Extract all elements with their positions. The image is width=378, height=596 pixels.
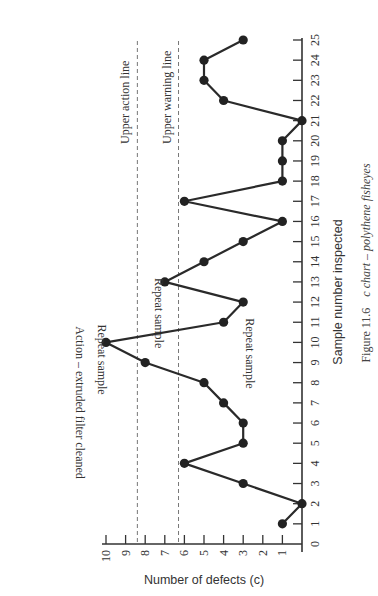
annotation-label: Action – extruded filter cleaned <box>73 326 87 479</box>
data-point <box>239 418 248 427</box>
x-tick-label: 2 <box>308 501 322 507</box>
x-tick-label: 14 <box>308 256 322 268</box>
data-point <box>219 318 228 327</box>
caption-number: Figure 11.6 <box>359 308 373 363</box>
reference-line-label: Upper warning line <box>160 51 174 144</box>
c-chart: 0123456789101112131415161718192021222324… <box>0 0 378 596</box>
data-point <box>180 459 189 468</box>
reference-line-label: Upper action line <box>118 61 132 144</box>
x-tick-label: 24 <box>308 54 322 66</box>
data-point <box>141 358 150 367</box>
x-tick-label: 1 <box>308 521 322 527</box>
x-tick-label: 13 <box>308 276 322 288</box>
x-tick-label: 25 <box>308 34 322 46</box>
caption-text: c chart – polythene fisheyes <box>359 163 373 297</box>
x-tick-label: 21 <box>308 115 322 127</box>
data-point <box>278 136 287 145</box>
x-tick-label: 11 <box>308 316 322 328</box>
x-tick-label: 8 <box>308 380 322 386</box>
reference-lines: Upper action lineUpper warning line <box>118 40 178 542</box>
x-tick-label: 5 <box>308 440 322 446</box>
data-point <box>278 177 287 186</box>
y-tick-label: 3 <box>236 550 250 556</box>
y-tick-label: 8 <box>138 550 152 556</box>
y-tick-label: 10 <box>99 550 113 562</box>
figure-caption: Figure 11.6 c chart – polythene fisheyes <box>359 163 373 363</box>
data-point <box>239 439 248 448</box>
x-tick-label: 10 <box>308 336 322 348</box>
x-tick-label: 17 <box>308 195 322 207</box>
y-tick-label: 4 <box>217 550 231 556</box>
data-point <box>278 519 287 528</box>
y-tick-label: 1 <box>275 550 289 556</box>
data-point <box>199 257 208 266</box>
x-tick-label: 0 <box>308 541 322 547</box>
y-tick-label: 9 <box>119 550 133 556</box>
x-tick-label: 22 <box>308 94 322 106</box>
x-tick-label: 7 <box>308 400 322 406</box>
annotation-label: Repeat sample <box>95 324 109 394</box>
y-axis-title: Number of defects (c) <box>144 573 264 587</box>
x-tick-label: 6 <box>308 420 322 426</box>
data-point <box>239 35 248 44</box>
data-point <box>297 116 306 125</box>
y-tick-label: 2 <box>256 550 270 556</box>
data-point <box>180 197 189 206</box>
data-point <box>199 378 208 387</box>
data-point <box>199 76 208 85</box>
x-tick-label: 18 <box>308 175 322 187</box>
x-tick-label: 15 <box>308 236 322 248</box>
x-tick-label: 19 <box>308 155 322 167</box>
data-point <box>219 398 228 407</box>
y-tick-label: 7 <box>158 550 172 556</box>
annotation-label: Repeat sample <box>243 318 257 388</box>
data-point <box>239 237 248 246</box>
data-point <box>239 297 248 306</box>
data-point <box>239 479 248 488</box>
data-point <box>199 56 208 65</box>
rotated-figure: 0123456789101112131415161718192021222324… <box>0 0 378 596</box>
x-tick-label: 9 <box>308 360 322 366</box>
data-point <box>278 156 287 165</box>
y-tick-label: 5 <box>197 550 211 556</box>
x-tick-label: 12 <box>308 296 322 308</box>
axes: 0123456789101112131415161718192021222324… <box>99 34 322 562</box>
x-tick-label: 4 <box>308 460 322 466</box>
data-point <box>219 96 228 105</box>
y-tick-label: 6 <box>177 550 191 556</box>
data-point <box>278 217 287 226</box>
x-tick-label: 23 <box>308 74 322 86</box>
series-line <box>106 40 302 524</box>
x-tick-label: 20 <box>308 135 322 147</box>
x-tick-label: 3 <box>308 481 322 487</box>
data-point <box>297 499 306 508</box>
annotation-label: Repeat sample <box>152 278 166 348</box>
x-tick-label: 16 <box>308 215 322 227</box>
x-axis-title: Sample number inspected <box>331 219 345 364</box>
